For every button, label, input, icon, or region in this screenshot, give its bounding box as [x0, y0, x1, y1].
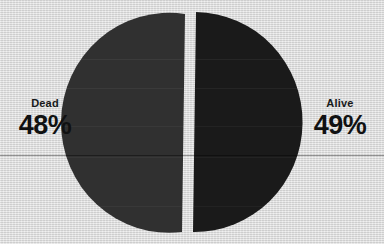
pie-slice-alive — [193, 12, 303, 232]
pie-label-alive-percent: 49% — [300, 111, 380, 140]
scanned-figure: Dead 48% Alive 49% — [0, 0, 384, 244]
pie-label-dead: Dead 48% — [6, 97, 84, 140]
pie-label-alive: Alive 49% — [300, 97, 380, 140]
pie-label-dead-name: Dead — [6, 97, 84, 110]
pie-label-dead-percent: 48% — [6, 111, 84, 140]
pie-label-alive-name: Alive — [300, 97, 380, 110]
